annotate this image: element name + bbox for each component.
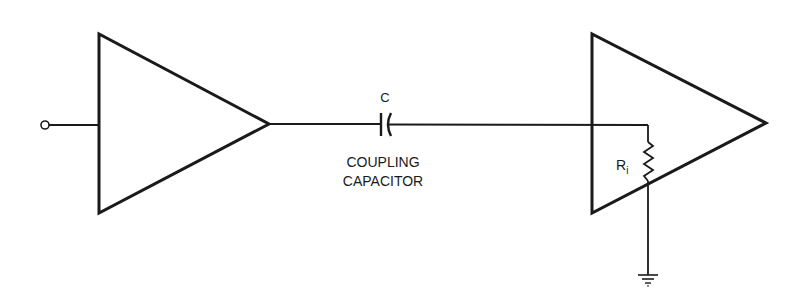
- amplifier-1-icon: [99, 34, 269, 213]
- ground-icon: [638, 275, 658, 286]
- resistor-label: Ri: [616, 157, 628, 176]
- capacitor-caption-line2: CAPACITOR: [343, 173, 423, 189]
- resistor-icon: [644, 125, 653, 181]
- amplifier-2-icon: [592, 34, 766, 213]
- circuit-diagram: C COUPLING CAPACITOR Ri: [0, 0, 799, 300]
- capacitor-symbol-label: C: [380, 90, 389, 105]
- coupling-wire: [389, 125, 648, 126]
- capacitor-caption-line1: COUPLING: [346, 154, 419, 170]
- input-terminal-icon: [41, 121, 49, 129]
